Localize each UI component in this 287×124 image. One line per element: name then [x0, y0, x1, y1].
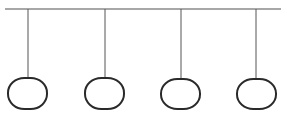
pendant-group: [8, 9, 276, 109]
pendant-diagram: [0, 0, 287, 124]
pendant-lamp-shape: [8, 78, 47, 109]
pendant-lamp-shape: [237, 79, 276, 109]
diagram-canvas: [0, 0, 287, 124]
pendant-lamp-shape: [161, 79, 200, 109]
pendant: [8, 9, 47, 109]
pendant-lamp-shape: [85, 78, 124, 109]
pendant: [161, 9, 200, 109]
pendant: [85, 9, 124, 109]
pendant: [237, 9, 276, 109]
